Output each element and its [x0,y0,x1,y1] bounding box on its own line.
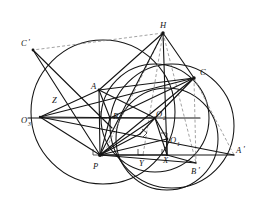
label-C: C [200,67,206,77]
seg-A-O2 [99,90,155,118]
label-Y: Y [139,158,145,168]
dot-B [109,117,112,120]
label-Cp-prime-mark: ' [28,37,30,47]
label-Z: Z [52,95,57,105]
seg-C-Ap [194,78,234,155]
dot-P [98,153,102,157]
label-O2-letter: O [156,109,162,119]
seg-H-C [163,33,194,78]
label-B-prime: B ' [191,165,200,176]
label-O1-subscript: 1 [177,141,180,147]
label-Ap-letter: A [235,145,242,155]
point-labels-group: H C ' C A Z B O 3 O 2 O 1 X Y P [21,20,245,176]
seg-H-A [99,33,163,90]
label-A: A [90,81,97,91]
dot-O1 [166,138,169,141]
label-A-prime: A ' [235,144,245,155]
seg-H-Cp [33,33,163,50]
seg-C-Bp [194,78,196,163]
dot-C [192,76,195,79]
label-O3-letter: O [21,115,27,125]
label-Bp-prime-mark: ' [198,165,200,175]
dot-A [98,89,101,92]
seg-O3-A [40,90,99,117]
label-H: H [159,20,167,30]
label-Cp-letter: C [21,38,27,48]
label-O1: O 1 [170,135,180,147]
seg-H-X [163,33,167,155]
label-Ap-prime-mark: ' [243,144,245,154]
label-Bp-letter: B [191,166,196,176]
label-B: B [113,111,118,121]
seg-A-P [99,90,100,155]
label-O3: O 3 [21,115,31,127]
circles-group [31,40,234,190]
label-C-prime: C ' [21,37,30,48]
label-O1-letter: O [170,135,176,145]
label-O2: O 2 [156,109,166,121]
seg-Cp-P [33,50,100,155]
circle-O3-large-left [31,40,175,184]
dot-H [161,31,164,34]
dot-O3 [39,116,41,118]
figure-canvas: — — □ — □ — — □ — — □ — □ — □ — [0,0,254,223]
dot-Cp [32,49,35,52]
geometry-diagram: H C ' C A Z B O 3 O 2 O 1 X Y P [0,0,254,223]
label-O2-subscript: 2 [163,115,166,121]
label-P: P [92,161,98,171]
label-O3-subscript: 3 [27,121,31,127]
label-X: X [162,155,169,165]
